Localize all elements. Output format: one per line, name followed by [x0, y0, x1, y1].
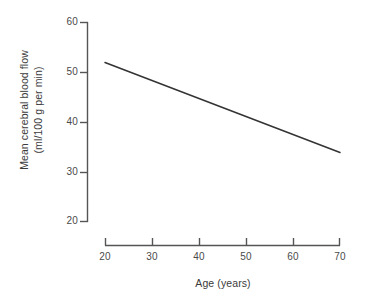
x-tick-label-70: 70: [328, 251, 352, 262]
y-tick-label-60: 60: [56, 16, 78, 27]
x-tick-label-40: 40: [187, 251, 211, 262]
x-tick-label-30: 30: [140, 251, 164, 262]
chart-figure: Mean cerebral blood flow (ml/100 g per m…: [0, 0, 368, 307]
x-tick-label-60: 60: [281, 251, 305, 262]
y-tick-label-30: 30: [56, 166, 78, 177]
plot-area: [0, 0, 368, 307]
data-line-blood-flow: [105, 63, 340, 153]
x-tick-label-50: 50: [234, 251, 258, 262]
x-axis-spine: [105, 238, 340, 246]
y-tick-label-20: 20: [56, 215, 78, 226]
y-tick-label-50: 50: [56, 66, 78, 77]
y-tick-label-40: 40: [56, 116, 78, 127]
x-tick-label-20: 20: [93, 251, 117, 262]
x-axis-title: Age (years): [105, 277, 341, 289]
x-axis-ticks: [153, 238, 294, 246]
